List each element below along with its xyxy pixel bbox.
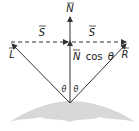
svg-text:N cos θ: N cos θ bbox=[73, 51, 114, 62]
reflection-diagram: N S S L R N cos θ θ θ bbox=[0, 0, 139, 131]
label-light: L bbox=[9, 48, 16, 60]
svg-text:N: N bbox=[66, 3, 74, 14]
label-projection: N cos θ bbox=[73, 50, 114, 62]
label-s-right: S bbox=[89, 26, 96, 38]
angle-right-label: θ bbox=[74, 85, 79, 94]
light-vector bbox=[12, 44, 70, 103]
svg-text:S: S bbox=[39, 27, 46, 38]
surface-shape bbox=[10, 101, 135, 122]
angle-left-label: θ bbox=[62, 85, 67, 94]
svg-text:S: S bbox=[89, 27, 96, 38]
label-s-left: S bbox=[39, 26, 46, 38]
svg-text:R: R bbox=[122, 49, 129, 60]
projection-arrowhead bbox=[67, 40, 73, 46]
label-normal: N bbox=[66, 3, 74, 14]
svg-text:L: L bbox=[9, 49, 15, 60]
label-reflect: R bbox=[122, 48, 129, 60]
